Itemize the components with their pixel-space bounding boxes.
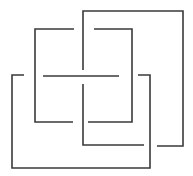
strand-big-square-top-right xyxy=(83,11,183,146)
knot-strands xyxy=(12,11,183,168)
strand-lower-square xyxy=(83,84,144,145)
knot-diagram xyxy=(0,0,193,176)
